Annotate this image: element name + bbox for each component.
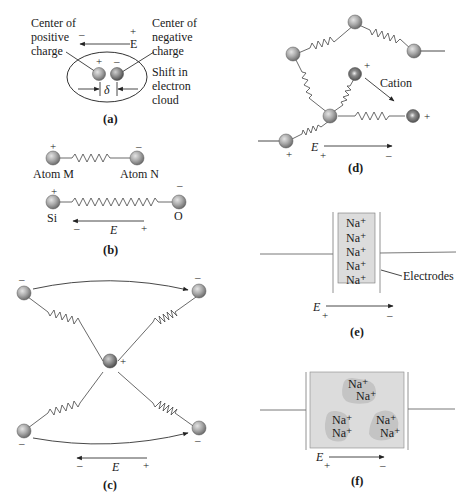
ion-e-1: Na⁺ [346,216,366,230]
spring-c-tl [28,297,103,361]
field-minus-sign: – [78,28,85,40]
ion-f-5: Na⁺ [376,413,396,427]
spring-si-o [60,198,172,206]
wire-right-e [380,252,456,253]
atom-c-br [192,421,206,435]
caption-b: (b) [103,243,118,257]
spring-m-n [60,154,130,162]
atom-c-bl [17,424,31,438]
field-label-b: E [109,223,118,237]
ion-e-4: Na⁺ [346,259,366,273]
ion-e-3: Na⁺ [346,245,366,259]
cation-displaced [407,110,420,123]
atom-m-label: Atom M [33,167,74,181]
field-minus-c: – [76,459,83,471]
plus-c-center: + [120,355,126,367]
caption-c: (c) [103,478,117,492]
field-plus-sign: + [130,25,136,37]
field-label: E [130,37,137,51]
label-shift-line3: cloud [152,93,179,107]
field-minus-d: – [385,149,392,161]
field-minus-b: – [73,222,80,234]
atom-m [46,151,60,165]
cation-label: Cation [380,76,412,90]
minus-c-bl: – [18,437,25,449]
atom-m-plus: + [50,140,56,152]
label-negative-center-line3: charge [152,44,184,58]
spring-d-3 [296,60,328,113]
minus-c-br: – [194,434,201,446]
negative-center-atom [111,68,124,81]
ion-f-4: Na⁺ [332,426,352,440]
caption-d: (d) [348,161,363,175]
spring-d-1 [296,25,354,54]
atom-d-right [407,44,421,58]
panel-c: – – – – + – E + (c) [17,271,206,492]
field-plus-c: + [143,459,149,471]
caption-f: (f) [351,474,364,488]
ion-f-3: Na⁺ [332,413,352,427]
panel-a: Center of positive charge – + E Center o… [31,16,197,126]
caption-e: (e) [350,325,364,339]
atom-si [46,195,60,209]
caption-a: (a) [103,112,118,126]
field-label-f: E [315,450,324,464]
electrodes-label: Electrodes [403,269,454,283]
curved-arrow-top [33,281,188,290]
atom-n-minus: – [135,140,142,152]
label-positive-center-line2: positive [31,30,69,44]
panel-e: Na⁺ Na⁺ Na⁺ Na⁺ Na⁺ Electrodes E + – (e) [260,212,456,339]
spring-d-5 [338,112,405,120]
panel-d: + + + Cation E + – (d) [258,15,445,175]
label-negative-center-line2: negative [152,30,193,44]
label-positive-center-line3: charge [31,44,63,58]
spring-c-bl [28,372,103,428]
panel-b: + – Atom M Atom N + – Si O – E + (b) [33,140,186,257]
atom-c-tr [192,284,206,298]
label-negative-center-line1: Center of [152,16,197,30]
electrodes-leader [381,270,402,276]
ion-f-6: Na⁺ [380,426,400,440]
atom-n [130,151,144,165]
minus-c-tr: – [194,271,201,283]
field-plus-f: + [324,459,330,471]
positive-center-atom [93,68,106,81]
spring-d-2 [359,25,412,50]
atom-c-tl [17,286,31,300]
atom-c-center [103,354,117,368]
ion-e-5: Na⁺ [346,273,366,287]
spring-c-br [118,372,196,428]
atom-n-label: Atom N [120,167,159,181]
field-minus-e: – [386,309,393,321]
ion-f-2: Na⁺ [356,389,376,403]
delta-symbol: δ [104,83,110,97]
atom-d-top [348,15,362,29]
label-shift-line2: electron [152,79,191,93]
cation-original [349,68,362,81]
curved-arrow-bottom [33,433,188,444]
atom-o-minus: – [176,179,183,191]
field-plus-d: + [320,149,326,161]
ion-e-2: Na⁺ [346,231,366,245]
spring-c-tr [118,297,196,361]
cation-original-plus: + [364,59,370,71]
field-plus-b: + [141,222,147,234]
atom-d-bottom-left [279,134,293,148]
panel-f: Na⁺ Na⁺ Na⁺ Na⁺ Na⁺ Na⁺ E + – (f) [260,372,455,488]
atom-o [172,195,186,209]
field-label-c: E [111,460,120,474]
spring-d-6 [292,121,329,139]
field-plus-e: + [322,309,328,321]
atom-d-center [323,109,337,123]
spring-d-4 [333,79,354,112]
atom-si-label: Si [47,211,58,225]
label-positive-center-line1: Center of [31,16,76,30]
atom-bottom-plus: + [286,148,292,160]
leader-positive [66,52,96,72]
atom-d-left [286,47,300,61]
polarization-figure: Center of positive charge – + E Center o… [0,0,468,499]
label-shift-line1: Shift in [152,65,188,79]
field-label-d: E [310,140,319,154]
field-label-e: E [312,300,321,314]
atom-o-label: O [174,209,183,223]
